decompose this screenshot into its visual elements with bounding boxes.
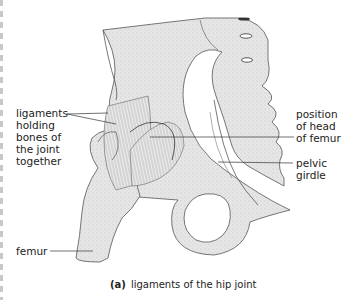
- label-line: together: [16, 155, 68, 167]
- label-ligaments: ligaments holding bones of the joint tog…: [16, 107, 68, 167]
- label-line: the joint: [16, 143, 68, 155]
- label-line: ligaments: [16, 107, 68, 119]
- label-femur: femur: [16, 245, 47, 257]
- figure-caption: (a)ligaments of the hip joint: [110, 279, 256, 290]
- caption-text: ligaments of the hip joint: [131, 279, 257, 290]
- label-pelvic-girdle: pelvic girdle: [296, 157, 327, 181]
- label-line: bones of: [16, 131, 68, 143]
- label-line: of head: [296, 120, 341, 132]
- label-line: of femur: [296, 132, 341, 144]
- label-line: holding: [16, 119, 68, 131]
- label-line: pelvic: [296, 157, 327, 169]
- label-line: position: [296, 108, 341, 120]
- label-line: femur: [16, 245, 47, 257]
- panel-letter: (a): [110, 279, 126, 290]
- label-position-of-head-of-femur: position of head of femur: [296, 108, 341, 144]
- label-line: girdle: [296, 169, 327, 181]
